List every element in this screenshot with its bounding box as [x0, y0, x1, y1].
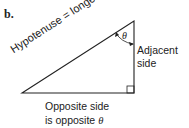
adjacent-label-line1: Adjacent	[137, 44, 178, 57]
arrow-head-right	[129, 42, 134, 46]
opposite-label-line2: is opposite θ	[45, 113, 109, 128]
right-triangle-figure: b. Hypotenuse = longest side θ Adjacent …	[0, 0, 189, 128]
adjacent-label-line2: side	[137, 57, 178, 70]
right-angle-marker	[127, 86, 134, 93]
theta-symbol: θ	[98, 115, 103, 126]
opposite-label: Opposite side is opposite θ	[45, 99, 109, 128]
adjacent-label: Adjacent side	[137, 44, 178, 70]
panel-label: b.	[4, 7, 14, 22]
opposite-label-prefix: is opposite	[45, 114, 98, 126]
angle-theta-label: θ	[122, 30, 127, 41]
opposite-label-line1: Opposite side	[45, 99, 109, 113]
